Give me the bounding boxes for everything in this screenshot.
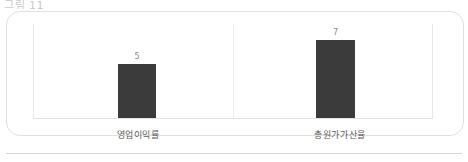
bar-operating-profit-ratio[interactable]: [118, 64, 156, 118]
x-axis-label-2: 총원가가산율: [265, 128, 415, 141]
category-divider: [233, 24, 234, 118]
bar-value-label-1: 5: [118, 52, 156, 61]
bar-chart: 5 7 영업이익률 총원가가산율: [0, 0, 468, 162]
bar-value-label-2: 7: [316, 28, 355, 37]
bottom-divider-rule: [6, 153, 462, 154]
bar-total-cost-markup-ratio[interactable]: [316, 40, 355, 118]
x-axis-label-1: 영업이익률: [73, 128, 203, 141]
